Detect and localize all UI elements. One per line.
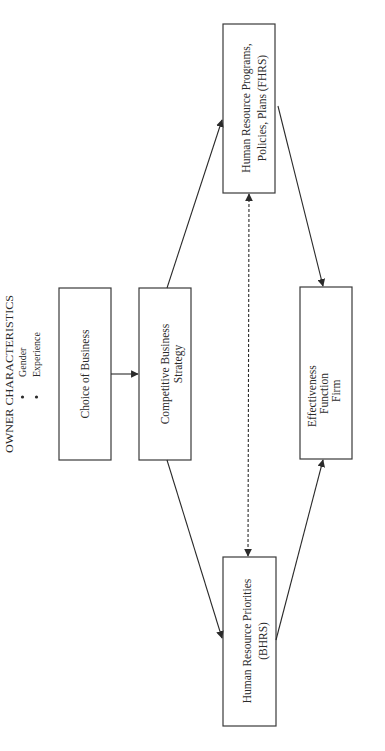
- owner-characteristics-title: OWNER CHARACTERISTICS: [3, 295, 15, 453]
- node-effectiveness: Effectiveness Function Firm: [300, 287, 352, 459]
- effectiveness-label-line2: Function: [318, 373, 330, 414]
- owner-item-gender: Gender: [17, 347, 28, 377]
- choice-of-business-label: Choice of Business: [79, 329, 91, 418]
- edge-fhrs-bhrs-dashed: [248, 194, 249, 556]
- node-competitive-business-strategy: Competitive Business Strategy: [139, 288, 191, 460]
- edge-strategy-to-fhrs: [167, 120, 222, 288]
- competitive-strategy-label-line1: Competitive Business: [159, 323, 172, 424]
- node-bhrs: Human Resource Priorities (BHRS): [223, 557, 276, 726]
- competitive-strategy-label-line2: Strategy: [172, 345, 185, 384]
- owner-characteristics: OWNER CHARACTERISTICS Gender Experience: [3, 295, 42, 453]
- bullet-icon: [21, 395, 24, 398]
- bhrs-label-line1: Human Resource Priorities: [241, 578, 253, 703]
- edge-strategy-to-bhrs: [167, 460, 222, 638]
- edge-fhrs-to-effectiveness: [278, 106, 323, 286]
- effectiveness-label-line1: Effectiveness: [306, 365, 318, 427]
- fhrs-label-line2: Policies, Plans (FHRS): [256, 55, 269, 162]
- edge-bhrs-to-effectiveness: [276, 460, 323, 640]
- bhrs-label-line2: (BHRS): [257, 622, 270, 660]
- hr-strategy-diagram: OWNER CHARACTERISTICS Gender Experience …: [0, 0, 385, 751]
- node-choice-of-business: Choice of Business: [59, 288, 111, 460]
- owner-item-experience: Experience: [31, 331, 42, 377]
- node-fhrs: Human Resource Programs, Policies, Plans…: [223, 24, 275, 193]
- effectiveness-label-line3: Firm: [330, 380, 342, 402]
- fhrs-label-line1: Human Resource Programs,: [240, 43, 253, 172]
- bullet-icon: [35, 395, 38, 398]
